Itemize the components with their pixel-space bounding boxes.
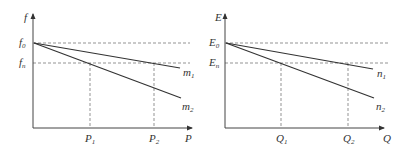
right-chart: E E0 En Q1 Q2 Q n1 n2 <box>208 11 391 146</box>
m1-line <box>34 43 180 68</box>
f-axis-label: f <box>24 11 29 23</box>
e-axis-label: E <box>214 11 222 23</box>
n2-line <box>226 43 374 98</box>
m1-label: m1 <box>183 66 194 80</box>
p2-label: P2 <box>148 132 160 146</box>
left-chart: f f0 fn P1 P2 P m1 m2 <box>19 11 194 146</box>
n1-line <box>226 43 373 69</box>
q2-label: Q2 <box>343 132 355 146</box>
en-label: En <box>208 56 220 70</box>
q-axis-label: Q <box>383 132 391 144</box>
diagram-canvas: f f0 fn P1 P2 P m1 m2 E E0 En Q1 Q2 Q n1… <box>0 0 402 154</box>
e0-label: E0 <box>208 36 220 50</box>
n1-label: n1 <box>377 67 386 81</box>
fn-label: fn <box>19 56 26 70</box>
m2-label: m2 <box>182 100 194 114</box>
p-axis-label: P <box>184 132 192 144</box>
p1-label: P1 <box>84 132 95 146</box>
m2-line <box>34 43 181 98</box>
f0-label: f0 <box>19 36 26 50</box>
q1-label: Q1 <box>276 132 287 146</box>
n2-label: n2 <box>376 100 386 114</box>
